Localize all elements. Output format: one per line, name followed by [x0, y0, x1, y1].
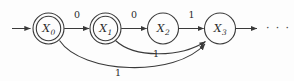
- state-x3[interactable]: X 3: [205, 13, 236, 44]
- state-x2[interactable]: X 2: [148, 13, 179, 44]
- state-x1-subscript: 1: [107, 28, 112, 37]
- continuation-ellipsis: · · ·: [266, 22, 290, 35]
- automaton-diagram: X 0 X 1 X 2 X 3 0 0 1 1 1 · · ·: [0, 0, 294, 81]
- transition-label-x1-x2: 0: [131, 9, 137, 20]
- state-x3-subscript: 3: [222, 28, 227, 37]
- state-x2-subscript: 2: [164, 28, 170, 37]
- state-x1[interactable]: X 1: [90, 13, 121, 44]
- transition-x1-x3-curve: [116, 41, 206, 54]
- transition-label-x0-x1: 0: [74, 9, 80, 20]
- transition-label-x0-x3: 1: [115, 67, 121, 78]
- state-x0-subscript: 0: [50, 28, 55, 37]
- transition-label-x2-x3: 1: [188, 9, 194, 20]
- transition-label-x1-x3: 1: [153, 48, 159, 59]
- state-x0[interactable]: X 0: [33, 13, 64, 44]
- automaton-canvas: X 0 X 1 X 2 X 3 0 0 1 1 1 · · ·: [0, 0, 294, 81]
- transition-x0-x3-curve: [60, 41, 206, 68]
